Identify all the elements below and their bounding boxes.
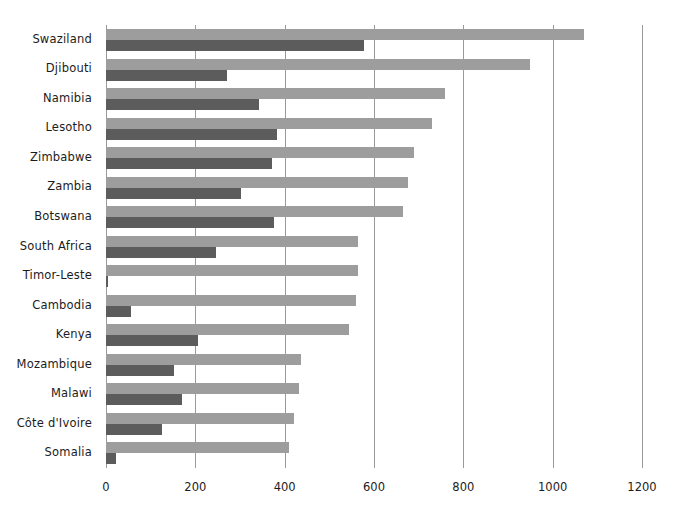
bar-group bbox=[106, 320, 642, 350]
bar-dark bbox=[106, 129, 277, 140]
bar-dark bbox=[106, 335, 198, 346]
category-label: Côte d'Ivoire bbox=[17, 418, 92, 430]
bar-light bbox=[106, 206, 403, 217]
bar-dark bbox=[106, 453, 116, 464]
category-label: Cambodia bbox=[32, 300, 92, 312]
category-label: Lesotho bbox=[45, 122, 92, 134]
bar-group bbox=[106, 114, 642, 144]
bar-dark bbox=[106, 247, 216, 258]
bar-light bbox=[106, 413, 294, 424]
bar-group bbox=[106, 173, 642, 203]
bar-group bbox=[106, 25, 642, 55]
bar-group bbox=[106, 379, 642, 409]
bar-dark bbox=[106, 40, 364, 51]
bar-light bbox=[106, 383, 299, 394]
xtick-label: 0 bbox=[102, 480, 109, 494]
category-label: Kenya bbox=[56, 329, 92, 341]
category-label: Zimbabwe bbox=[30, 152, 92, 164]
category-label: Botswana bbox=[34, 211, 92, 223]
bar-group bbox=[106, 143, 642, 173]
bar-light bbox=[106, 442, 289, 453]
bar-light bbox=[106, 88, 445, 99]
bar-light bbox=[106, 29, 584, 40]
bar-dark bbox=[106, 276, 108, 287]
bar-group bbox=[106, 291, 642, 321]
bar-light bbox=[106, 265, 358, 276]
xtick-label: 800 bbox=[452, 480, 474, 494]
xtick-label: 600 bbox=[363, 480, 385, 494]
category-label: Mozambique bbox=[17, 359, 92, 371]
gridline-1200 bbox=[642, 25, 643, 468]
x-axis: 020040060080010001200 bbox=[0, 468, 674, 506]
xtick-label: 400 bbox=[274, 480, 296, 494]
bar-group bbox=[106, 84, 642, 114]
bar-light bbox=[106, 324, 349, 335]
bar-dark bbox=[106, 188, 241, 199]
category-label: Somalia bbox=[45, 447, 92, 459]
bar-dark bbox=[106, 99, 259, 110]
bar-light bbox=[106, 177, 408, 188]
category-label: Malawi bbox=[51, 388, 92, 400]
category-label: Djibouti bbox=[46, 63, 92, 75]
xtick-label: 1000 bbox=[538, 480, 567, 494]
bar-group bbox=[106, 409, 642, 439]
category-label: South Africa bbox=[20, 241, 92, 253]
category-axis: SwazilandDjiboutiNamibiaLesothoZimbabweZ… bbox=[0, 25, 100, 468]
bar-dark bbox=[106, 394, 182, 405]
bar-group bbox=[106, 232, 642, 262]
bar-light bbox=[106, 147, 414, 158]
bar-dark bbox=[106, 306, 131, 317]
bar-chart: SwazilandDjiboutiNamibiaLesothoZimbabweZ… bbox=[0, 0, 674, 506]
bar-dark bbox=[106, 365, 174, 376]
bar-group bbox=[106, 438, 642, 468]
bar-group bbox=[106, 55, 642, 85]
bar-group bbox=[106, 350, 642, 380]
bar-light bbox=[106, 236, 358, 247]
bar-light bbox=[106, 118, 432, 129]
bar-dark bbox=[106, 217, 274, 228]
category-label: Timor-Leste bbox=[23, 270, 92, 282]
category-label: Namibia bbox=[43, 93, 92, 105]
bar-light bbox=[106, 295, 356, 306]
xtick-label: 1200 bbox=[627, 480, 656, 494]
category-label: Zambia bbox=[47, 181, 92, 193]
bar-group bbox=[106, 202, 642, 232]
bar-dark bbox=[106, 158, 272, 169]
category-label: Swaziland bbox=[32, 34, 92, 46]
bar-dark bbox=[106, 70, 227, 81]
bar-light bbox=[106, 59, 530, 70]
xtick-label: 200 bbox=[184, 480, 206, 494]
bar-light bbox=[106, 354, 301, 365]
bar-dark bbox=[106, 424, 162, 435]
bar-group bbox=[106, 261, 642, 291]
plot-area bbox=[106, 25, 642, 468]
